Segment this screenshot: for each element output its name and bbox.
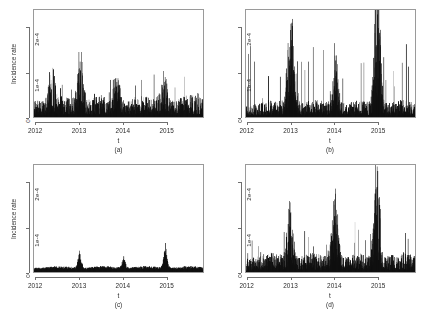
- x-tick-label-c-2: 2014: [116, 282, 131, 289]
- panel-d: 01e-42e-42012201320142015t(d): [212, 155, 423, 310]
- x-tick-d-2: [334, 277, 335, 280]
- plot-area-b: [245, 9, 416, 118]
- panel-a: 01e-42e-4Incidence rate2012201320142015t…: [0, 0, 212, 155]
- x-tick-c-0: [35, 277, 36, 280]
- x-axis-title-b: t: [329, 137, 331, 144]
- y-tick-d-2: [238, 182, 241, 183]
- y-tick-label-d-1: 1e-4: [245, 233, 252, 246]
- y-axis-line-a: [29, 27, 30, 118]
- y-axis-line-c: [29, 182, 30, 273]
- series-c: [34, 165, 203, 272]
- y-tick-d-1: [238, 228, 241, 229]
- x-tick-label-c-3: 2015: [159, 282, 174, 289]
- x-tick-c-2: [123, 277, 124, 280]
- y-axis-line-b: [241, 27, 242, 118]
- y-axis-title-a: Incidence rate: [10, 43, 17, 83]
- y-tick-b-2: [238, 27, 241, 28]
- x-tick-label-d-3: 2015: [371, 282, 386, 289]
- panel-caption-b: (b): [326, 146, 334, 153]
- plot-area-a: [33, 9, 204, 118]
- x-axis-title-a: t: [118, 137, 120, 144]
- y-tick-label-a-2: 2e-4: [33, 33, 40, 46]
- series-b: [246, 10, 415, 117]
- x-tick-label-c-1: 2013: [72, 282, 87, 289]
- x-tick-d-3: [378, 277, 379, 280]
- x-tick-label-b-1: 2013: [283, 127, 298, 134]
- x-tick-d-1: [291, 277, 292, 280]
- x-tick-b-2: [334, 122, 335, 125]
- y-axis-title-c: Incidence rate: [10, 198, 17, 238]
- y-tick-a-2: [26, 27, 29, 28]
- x-tick-label-a-3: 2015: [159, 127, 174, 134]
- x-tick-label-a-2: 2014: [116, 127, 131, 134]
- panel-caption-d: (d): [326, 301, 334, 308]
- x-axis-line-c: [35, 277, 167, 278]
- x-tick-c-3: [167, 277, 168, 280]
- y-tick-c-1: [26, 228, 29, 229]
- panel-b: 01e-42e-42012201320142015t(b): [212, 0, 423, 155]
- x-axis-line-a: [35, 122, 167, 123]
- x-tick-label-a-1: 2013: [72, 127, 87, 134]
- x-tick-label-d-0: 2012: [239, 282, 254, 289]
- y-tick-label-d-2: 2e-4: [245, 188, 252, 201]
- y-tick-label-b-2: 2e-4: [245, 33, 252, 46]
- y-tick-label-a-0: 0: [24, 119, 31, 123]
- x-tick-label-d-2: 2014: [327, 282, 342, 289]
- x-axis-title-d: t: [329, 292, 331, 299]
- panel-c: 01e-42e-4Incidence rate2012201320142015t…: [0, 155, 212, 310]
- series-d: [246, 165, 415, 272]
- y-tick-b-1: [238, 73, 241, 74]
- x-tick-b-1: [291, 122, 292, 125]
- panel-caption-a: (a): [115, 146, 123, 153]
- plot-area-d: [245, 164, 416, 273]
- x-tick-a-3: [167, 122, 168, 125]
- x-axis-line-b: [247, 122, 379, 123]
- figure-root: 01e-42e-4Incidence rate2012201320142015t…: [0, 0, 423, 310]
- y-tick-label-c-2: 2e-4: [33, 188, 40, 201]
- y-tick-label-c-1: 1e-4: [33, 233, 40, 246]
- x-tick-label-d-1: 2013: [283, 282, 298, 289]
- x-tick-d-0: [247, 277, 248, 280]
- x-tick-a-0: [35, 122, 36, 125]
- y-tick-a-1: [26, 73, 29, 74]
- x-tick-label-c-0: 2012: [28, 282, 43, 289]
- y-axis-line-d: [241, 182, 242, 273]
- x-tick-b-0: [247, 122, 248, 125]
- series-a: [34, 10, 203, 117]
- panel-caption-c: (c): [115, 301, 122, 308]
- x-axis-line-d: [247, 277, 379, 278]
- x-tick-a-2: [123, 122, 124, 125]
- x-tick-label-b-0: 2012: [239, 127, 254, 134]
- y-tick-label-b-1: 1e-4: [245, 78, 252, 91]
- x-tick-c-1: [79, 277, 80, 280]
- x-tick-a-1: [79, 122, 80, 125]
- x-tick-b-3: [378, 122, 379, 125]
- x-tick-label-b-3: 2015: [371, 127, 386, 134]
- y-tick-label-c-0: 0: [24, 274, 31, 278]
- y-tick-label-b-0: 0: [236, 119, 243, 123]
- y-tick-c-2: [26, 182, 29, 183]
- x-tick-label-a-0: 2012: [28, 127, 43, 134]
- x-axis-title-c: t: [118, 292, 120, 299]
- y-tick-label-a-1: 1e-4: [33, 78, 40, 91]
- plot-area-c: [33, 164, 204, 273]
- y-tick-label-d-0: 0: [236, 274, 243, 278]
- x-tick-label-b-2: 2014: [327, 127, 342, 134]
